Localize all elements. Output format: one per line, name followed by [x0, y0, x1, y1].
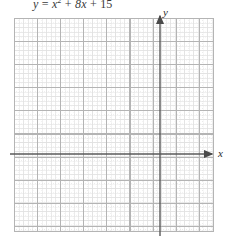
x-axis-label: x [218, 147, 223, 159]
axes-layer [0, 0, 228, 240]
graph-figure: y = x2 + 8x + 15 y x [0, 0, 228, 240]
y-axis-label: y [163, 6, 168, 18]
